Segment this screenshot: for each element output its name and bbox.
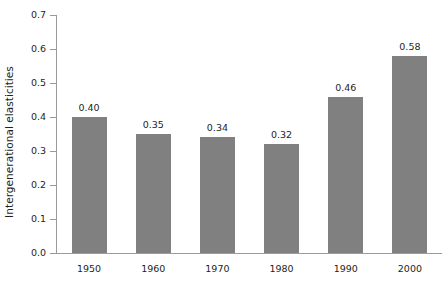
bar-value-label: 0.34 <box>187 123 247 133</box>
x-axis-tick-label: 1990 <box>316 264 376 274</box>
y-axis-tick <box>50 117 56 118</box>
bar-value-label: 0.32 <box>252 130 312 140</box>
y-axis-tick-label: 0.6 <box>0 44 46 54</box>
y-axis-tick <box>50 151 56 152</box>
y-axis-tick-label: 0.2 <box>0 180 46 190</box>
y-axis-tick <box>50 219 56 220</box>
y-axis-tick-label: 0.0 <box>0 248 46 258</box>
y-axis-tick <box>50 49 56 50</box>
bar-chart: Intergenerational elasticities 0.00.10.2… <box>0 0 448 284</box>
y-axis-line <box>56 15 57 254</box>
bar-value-label: 0.58 <box>380 42 440 52</box>
y-axis-title: Intergenerational elasticities <box>0 0 18 284</box>
y-axis-tick <box>50 15 56 16</box>
bar-value-label: 0.46 <box>316 83 376 93</box>
x-axis-tick-label: 1980 <box>252 264 312 274</box>
bar <box>264 144 299 253</box>
y-axis-tick-label: 0.7 <box>0 10 46 20</box>
bar-value-label: 0.35 <box>123 120 183 130</box>
bar <box>136 134 171 253</box>
y-axis-tick <box>50 83 56 84</box>
x-axis-tick-label: 1970 <box>187 264 247 274</box>
y-axis-tick-label: 0.3 <box>0 146 46 156</box>
bar-value-label: 0.40 <box>59 103 119 113</box>
y-axis-tick-label: 0.5 <box>0 78 46 88</box>
y-axis-tick-label: 0.1 <box>0 214 46 224</box>
x-axis-tick-label: 2000 <box>380 264 440 274</box>
bar <box>328 97 363 253</box>
x-axis-tick-label: 1950 <box>59 264 119 274</box>
x-axis-tick-label: 1960 <box>123 264 183 274</box>
y-axis-tick <box>50 185 56 186</box>
y-axis-tick <box>50 253 56 254</box>
bar <box>200 137 235 253</box>
y-axis-tick-label: 0.4 <box>0 112 46 122</box>
bar <box>72 117 107 253</box>
bar <box>392 56 427 253</box>
x-axis-line <box>56 253 442 254</box>
